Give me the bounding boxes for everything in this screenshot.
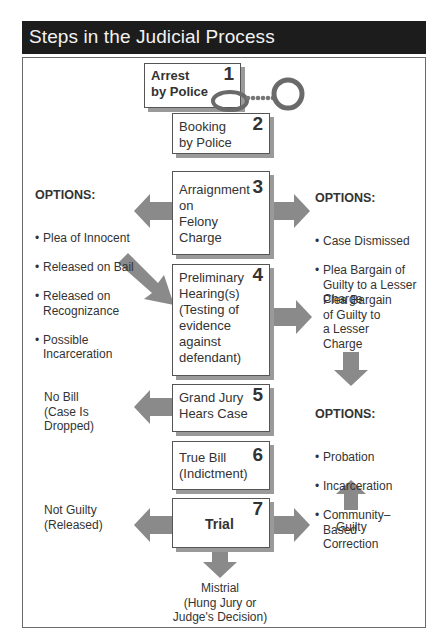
option-item: Incarceration [315, 479, 425, 494]
option-item: Plea of Innocent [35, 231, 145, 246]
step-number: 5 [252, 387, 263, 403]
arrow-down-plea-icon [334, 352, 368, 386]
arrow-left-notguilty-icon [134, 508, 174, 542]
option-item: Released on Bail [35, 260, 145, 275]
step-5-grand-jury: Grand Jury Hears Case 5 [172, 384, 270, 432]
step-label: Preliminary Hearing(s) (Testing of evide… [179, 270, 244, 366]
option-item: Case Dismissed [315, 234, 425, 249]
step-number: 7 [252, 501, 263, 517]
step-number: 3 [252, 179, 263, 195]
step-label: Arrest by Police [151, 68, 208, 100]
step-label: Trial [205, 516, 234, 532]
arrow-right-guilty-icon [270, 508, 310, 542]
step-number: 4 [252, 267, 263, 283]
option-item: Released on Recognizance [35, 289, 145, 318]
sentencing-options: OPTIONS: Probation Incarceration Communi… [315, 392, 425, 581]
step-2-booking: Booking by Police 2 [172, 113, 270, 154]
plea-bargain-text: Plea Bargain of Guilty to a Lesser Charg… [323, 293, 413, 351]
arrow-right-plea-icon [272, 300, 312, 334]
option-item: Probation [315, 450, 425, 465]
step-7-trial: Trial 7 [172, 498, 270, 548]
step-4-preliminary-hearing: Preliminary Hearing(s) (Testing of evide… [172, 264, 270, 376]
no-bill-text: No Bill (Case Is Dropped) [44, 390, 124, 434]
handcuffs-icon [210, 74, 305, 114]
guilty-text: Guilty [336, 520, 386, 535]
arraignment-left-options: OPTIONS: Plea of Innocent Released on Ba… [35, 173, 145, 391]
step-6-true-bill: True Bill (Indictment) 6 [172, 441, 270, 490]
step-3-arraignment: Arraignment on Felony Charge 3 [172, 171, 270, 255]
step-number: 6 [252, 447, 263, 463]
options-heading: OPTIONS: [315, 407, 425, 422]
arrow-right-options-icon [270, 194, 310, 228]
step-label: True Bill (Indictment) [179, 450, 248, 482]
step-label: Booking by Police [179, 119, 232, 151]
step-label: Arraignment on Felony Charge [179, 182, 250, 246]
arrow-left-nobill-icon [134, 390, 174, 424]
option-item: Possible Incarceration [35, 333, 145, 362]
title-bar: Steps in the Judicial Process [22, 21, 426, 54]
mistrial-text: Mistrial (Hung Jury or Judge's Decision) [160, 581, 280, 625]
step-number: 2 [252, 116, 263, 132]
arrow-down-mistrial-icon [203, 548, 237, 578]
step-label: Grand Jury Hears Case [179, 390, 248, 422]
page-title: Steps in the Judicial Process [29, 26, 275, 48]
not-guilty-text: Not Guilty (Released) [44, 503, 134, 532]
options-heading: OPTIONS: [35, 188, 145, 203]
options-heading: OPTIONS: [315, 191, 425, 206]
